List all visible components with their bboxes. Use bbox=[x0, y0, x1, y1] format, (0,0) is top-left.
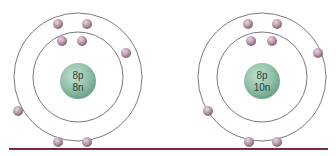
electron bbox=[272, 137, 282, 147]
protons-label: 8p bbox=[256, 70, 268, 81]
electron bbox=[53, 19, 63, 29]
electron bbox=[272, 19, 282, 29]
nucleus bbox=[60, 63, 96, 99]
electron bbox=[203, 106, 213, 116]
electron bbox=[82, 19, 92, 29]
electron bbox=[313, 48, 323, 58]
electron bbox=[77, 36, 87, 46]
electron bbox=[57, 36, 67, 46]
isotope-diagram: 8p 8n 8p 10n bbox=[0, 0, 336, 156]
electron bbox=[53, 137, 63, 147]
electron bbox=[243, 19, 253, 29]
electron bbox=[246, 36, 256, 46]
electron bbox=[267, 36, 277, 46]
neutrons-label: 10n bbox=[254, 82, 271, 93]
nucleus bbox=[244, 63, 280, 99]
electron bbox=[13, 106, 23, 116]
electron bbox=[244, 137, 254, 147]
electron bbox=[121, 48, 131, 58]
baseline bbox=[9, 148, 328, 150]
protons-label: 8p bbox=[72, 70, 84, 81]
atom-oxygen-16: 8p 8n bbox=[13, 13, 142, 147]
electron bbox=[82, 137, 92, 147]
neutrons-label: 8n bbox=[72, 82, 83, 93]
atom-oxygen-18: 8p 10n bbox=[198, 13, 326, 147]
